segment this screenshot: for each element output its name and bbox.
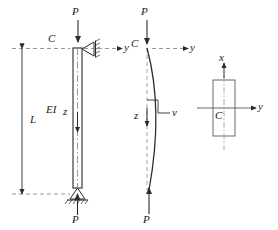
label-axis-y-mid: y — [190, 42, 195, 53]
label-axis-x-right: x — [219, 52, 224, 63]
buckled-shape-curve — [147, 48, 156, 190]
label-centroid-right: C — [215, 110, 222, 121]
dimension-extension-lines — [12, 49, 70, 195]
label-rigidity-EI: EI — [46, 104, 56, 115]
support-bottom-pin — [65, 188, 88, 204]
panel-buckled-column — [147, 20, 188, 214]
label-axis-z-left: z — [63, 106, 67, 117]
deflection-bracket — [147, 100, 170, 113]
label-load-bottom-mid: P — [143, 214, 150, 225]
buckling-figure: P C y z L EI P P C y z v P x y C — [0, 0, 278, 230]
figure-canvas — [0, 0, 278, 230]
panel-ideal-column — [12, 20, 122, 215]
label-length-L: L — [30, 114, 36, 125]
label-centroid-left: C — [48, 33, 55, 44]
label-centroid-mid: C — [131, 38, 138, 49]
label-axis-y-right: y — [258, 101, 263, 112]
label-load-top-left: P — [72, 6, 79, 17]
label-axis-y-left: y — [124, 42, 129, 53]
label-load-bottom-left: P — [72, 214, 79, 225]
label-axis-z-mid: z — [134, 110, 138, 121]
label-load-top-mid: P — [141, 6, 148, 17]
label-deflection-v: v — [172, 107, 177, 118]
panel-cross-section — [197, 63, 256, 150]
